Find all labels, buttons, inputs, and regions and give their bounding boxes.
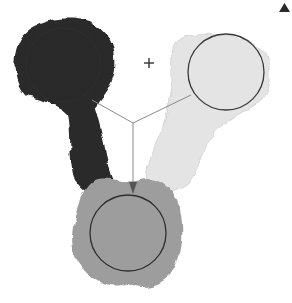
light-paint-swatch: [146, 35, 270, 193]
plus-icon: [144, 58, 154, 68]
triangle-marker-icon: [279, 3, 290, 12]
paint-mixing-diagram: [0, 0, 292, 303]
